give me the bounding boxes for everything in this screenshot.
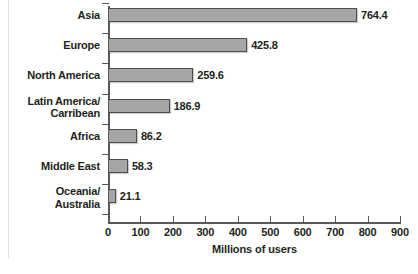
category-label: Middle East bbox=[0, 160, 100, 172]
value-axis-tick bbox=[173, 216, 174, 223]
bar-value-label: 21.1 bbox=[120, 190, 141, 202]
bar bbox=[109, 68, 193, 82]
bar-value-label: 764.4 bbox=[361, 9, 388, 21]
category-label: Oceania/Australia bbox=[0, 185, 100, 210]
figure-caption bbox=[12, 265, 352, 274]
bar-value-label: 186.9 bbox=[174, 100, 201, 112]
value-axis-tick bbox=[303, 216, 304, 223]
category-axis-tick bbox=[102, 184, 109, 185]
category-label-line: Australia bbox=[0, 198, 100, 211]
category-label: North America bbox=[0, 69, 100, 81]
category-label-line: Asia bbox=[0, 9, 100, 21]
value-axis-line bbox=[108, 222, 401, 224]
category-label-line: North America bbox=[0, 69, 100, 81]
bar-chart-figure: Asia764.4Europe425.8North America259.6La… bbox=[0, 0, 418, 274]
bar bbox=[109, 189, 116, 203]
bar bbox=[109, 129, 137, 143]
category-axis-tick bbox=[102, 94, 109, 95]
x-axis-title: Millions of users bbox=[108, 243, 401, 255]
bar bbox=[109, 99, 170, 113]
category-label: Asia bbox=[0, 9, 100, 21]
value-axis-tick bbox=[205, 216, 206, 223]
category-axis-tick bbox=[102, 154, 109, 155]
value-axis-tick bbox=[108, 216, 109, 223]
category-label-line: Carribean bbox=[0, 107, 100, 120]
bar bbox=[109, 8, 357, 22]
category-label-line: Latin America/ bbox=[0, 95, 100, 108]
bar bbox=[109, 38, 247, 52]
category-axis-tick bbox=[102, 124, 109, 125]
category-label-line: Oceania/ bbox=[0, 185, 100, 198]
category-axis-tick bbox=[102, 33, 109, 34]
value-axis-tick bbox=[368, 216, 369, 223]
bar-value-label: 58.3 bbox=[132, 160, 153, 172]
category-label: Europe bbox=[0, 39, 100, 51]
bar-value-label: 425.8 bbox=[251, 39, 278, 51]
bar-value-label: 259.6 bbox=[197, 69, 224, 81]
category-label-line: Europe bbox=[0, 39, 100, 51]
category-axis-tick bbox=[102, 63, 109, 64]
value-axis-tick bbox=[270, 216, 271, 223]
category-label: Africa bbox=[0, 130, 100, 142]
category-label: Latin America/Carribean bbox=[0, 95, 100, 120]
value-axis-tick bbox=[238, 216, 239, 223]
category-label-line: Middle East bbox=[0, 160, 100, 172]
value-axis-tick bbox=[335, 216, 336, 223]
value-axis-tick-label: 900 bbox=[380, 226, 418, 238]
category-label-line: Africa bbox=[0, 130, 100, 142]
bar-value-label: 86.2 bbox=[141, 130, 162, 142]
value-axis-tick bbox=[140, 216, 141, 223]
bar bbox=[109, 159, 128, 173]
category-axis-tick bbox=[102, 3, 109, 4]
value-axis-tick bbox=[400, 216, 401, 223]
